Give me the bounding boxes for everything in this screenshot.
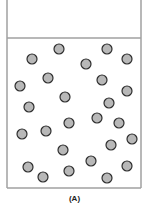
gas-particle: [41, 126, 51, 136]
gas-particle: [92, 113, 102, 123]
gas-particle: [15, 81, 25, 91]
gas-particle: [17, 129, 27, 139]
figure-label: (A): [0, 194, 149, 203]
gas-particle: [122, 86, 132, 96]
gas-particle: [64, 166, 74, 176]
gas-particle: [81, 59, 91, 69]
gas-particle: [97, 75, 107, 85]
gas-particle: [60, 92, 70, 102]
gas-particle: [102, 173, 112, 183]
gas-particle: [58, 145, 68, 155]
gas-particle: [104, 98, 114, 108]
gas-particle: [54, 44, 64, 54]
gas-particle: [114, 118, 124, 128]
gas-particle: [23, 162, 33, 172]
gas-particle: [122, 54, 132, 64]
gas-particle: [106, 140, 116, 150]
gas-particle: [102, 44, 112, 54]
container-diagram: [0, 0, 158, 209]
gas-particle: [64, 118, 74, 128]
container-walls: [7, 0, 141, 188]
gas-particle: [122, 161, 132, 171]
gas-particle: [127, 134, 137, 144]
gas-particle: [27, 54, 37, 64]
gas-particle: [86, 156, 96, 166]
particles: [15, 44, 137, 183]
gas-particle: [38, 172, 48, 182]
gas-particle: [24, 102, 34, 112]
gas-particle: [43, 73, 53, 83]
